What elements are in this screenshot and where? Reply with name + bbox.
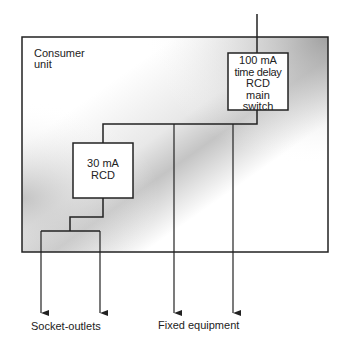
main-switch-line-3: RCD	[228, 78, 288, 90]
rcd-30ma-line-2: RCD	[73, 170, 133, 182]
consumer-unit-label-line2: unit	[34, 58, 52, 70]
main-switch-line-5: switch	[228, 101, 288, 113]
rcd-30ma-line-1: 30 mA	[73, 158, 133, 170]
fixed-equipment-label: Fixed equipment	[158, 319, 239, 331]
main-switch-label: 100 mA time delay RCD main switch	[228, 55, 288, 113]
socket-outlets-label: Socket-outlets	[31, 320, 101, 332]
main-switch-line-1: 100 mA	[228, 55, 288, 67]
rcd-30ma-label: 30 mA RCD	[73, 158, 133, 181]
